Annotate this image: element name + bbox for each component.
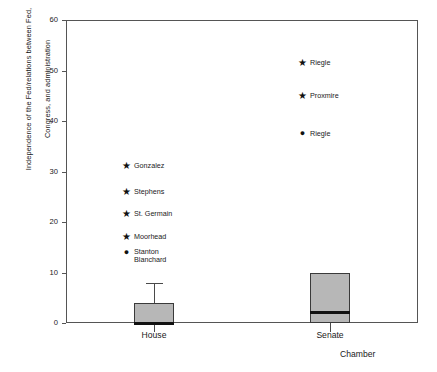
star-marker: ★ (297, 91, 308, 100)
y-tick-label: 10 (36, 268, 58, 278)
box-house (134, 303, 174, 323)
y-tick-mark (62, 323, 66, 324)
y-tick-label: 0 (36, 318, 58, 328)
y-tick-mark (62, 20, 66, 21)
whisker-cap-upper (146, 283, 163, 284)
whisker-lower (330, 323, 331, 332)
y-tick-mark (62, 121, 66, 122)
outlier-label: Gonzalez (134, 162, 164, 170)
y-tick-mark (62, 172, 66, 173)
x-axis-title: Chamber (340, 349, 430, 360)
star-marker: ★ (297, 58, 308, 67)
median-line-senate (310, 311, 350, 314)
star-marker: ★ (121, 187, 132, 196)
y-tick-label: 60 (36, 15, 58, 25)
plot-area (66, 20, 418, 323)
boxplot-figure: Independence of the Fed/relations betwee… (0, 0, 437, 372)
y-axis-title-line-1: Independence of the Fed/relations betwee… (24, 0, 34, 214)
star-marker: ★ (121, 161, 132, 170)
median-line-house (134, 322, 174, 325)
dot-marker: ● (297, 129, 308, 138)
outlier-label: Stanton Blanchard (134, 248, 166, 264)
y-tick-mark (62, 273, 66, 274)
box-senate (310, 273, 350, 324)
y-tick-label: 30 (36, 167, 58, 177)
star-marker: ★ (121, 232, 132, 241)
y-axis-title: Independence of the Fed/relations betwee… (14, 0, 44, 214)
outlier-label: Moorhead (134, 233, 166, 241)
outlier-label: Proxmire (310, 92, 339, 100)
y-tick-label: 40 (36, 116, 58, 126)
y-axis-title-line-2: Congress, and administration (43, 0, 53, 214)
outlier-label: Riegle (310, 59, 330, 67)
outlier-label: St. Germain (134, 210, 172, 218)
y-tick-mark (62, 71, 66, 72)
outlier-label: Stephens (134, 188, 164, 196)
outlier-label: Riegle (310, 130, 330, 138)
y-tick-label: 20 (36, 217, 58, 227)
y-tick-label: 50 (36, 66, 58, 76)
whisker-upper (154, 283, 155, 303)
star-marker: ★ (121, 209, 132, 218)
dot-marker: ● (121, 248, 132, 257)
y-tick-mark (62, 222, 66, 223)
